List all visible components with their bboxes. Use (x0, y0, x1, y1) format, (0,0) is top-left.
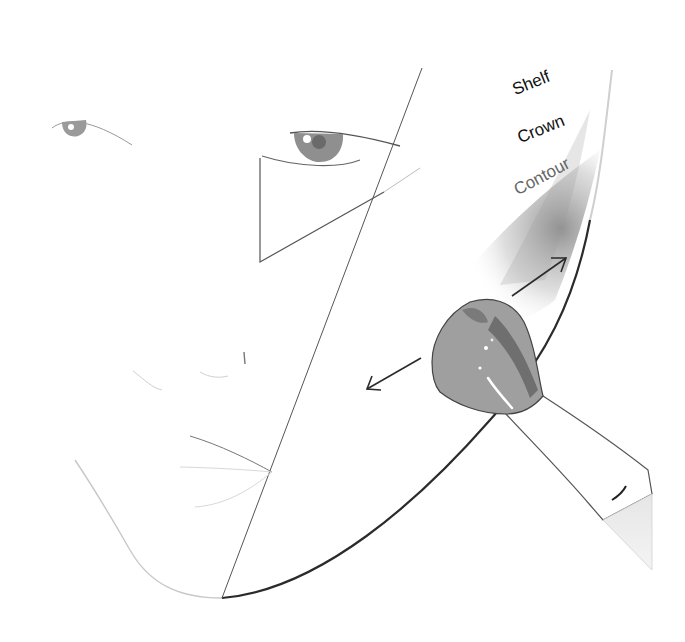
right-eye (262, 131, 400, 165)
contour-diagram: Shelf Crown Contour (0, 0, 685, 642)
triangle-extension (384, 168, 420, 192)
arrow-down-left (367, 358, 421, 390)
temple-edge (590, 70, 612, 220)
chin-outline (75, 460, 222, 598)
under-eye-triangle (260, 158, 384, 262)
brush-handle (506, 396, 652, 520)
left-eye (52, 120, 132, 145)
nose (133, 352, 245, 390)
face-illustration (0, 0, 685, 642)
makeup-brush (432, 299, 652, 570)
lips (180, 436, 272, 507)
